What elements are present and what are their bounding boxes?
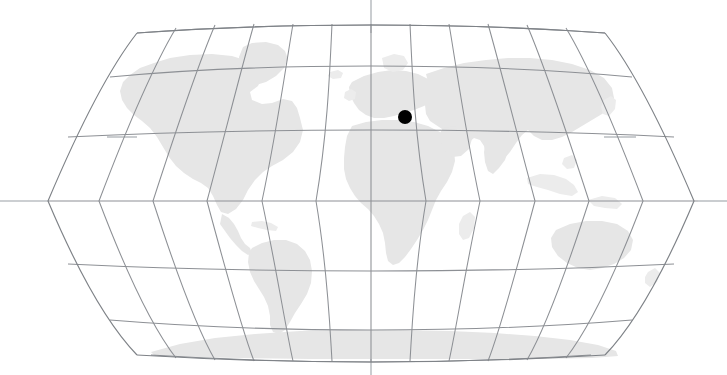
indonesia-landmass: [527, 174, 578, 196]
india-landmass: [484, 139, 508, 174]
meridian-180e-globe-edge: [605, 33, 694, 355]
antarctica-landmass: [151, 330, 618, 359]
central-america-landmass: [220, 214, 252, 255]
australia-landmass: [551, 221, 633, 270]
world-map-container: [0, 0, 727, 375]
meridian-180w-globe-edge: [48, 33, 137, 355]
new-guinea-landmass: [588, 196, 622, 209]
iceland-landmass: [328, 70, 343, 79]
caribbean-landmass: [251, 221, 278, 231]
meridian-30w: [316, 24, 332, 361]
africa-landmass: [344, 120, 455, 265]
scandinavia-landmass: [382, 54, 408, 72]
location-marker[interactable]: [398, 110, 412, 124]
world-map-svg: [0, 0, 727, 375]
south-america-landmass: [248, 240, 312, 334]
europe-landmass: [349, 70, 436, 118]
